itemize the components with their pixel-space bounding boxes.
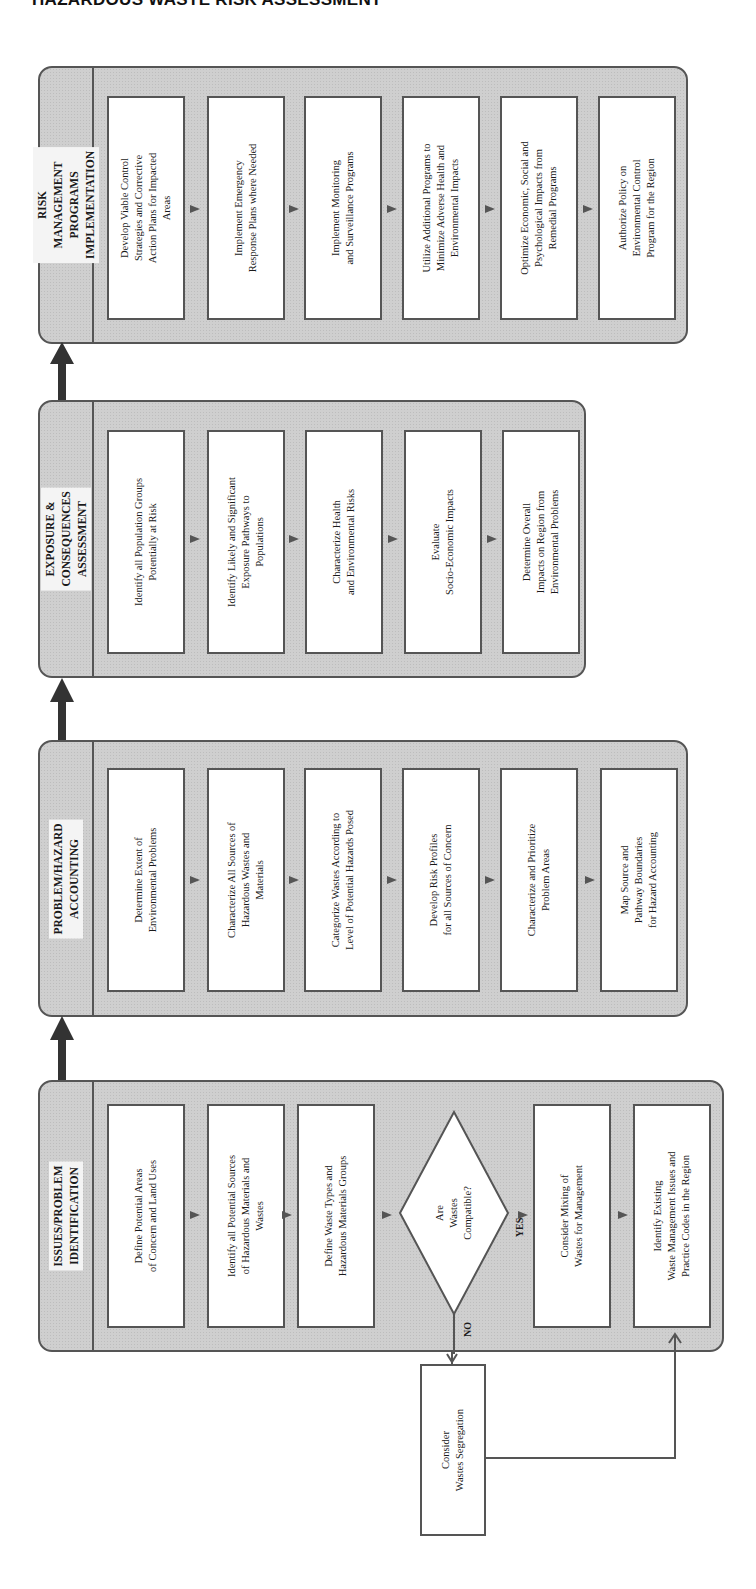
step-box: Authorize Policy on Environmental Contro… — [598, 96, 676, 320]
step-box: Develop Risk Profiles for all Sources of… — [402, 768, 480, 992]
arrow-up-icon — [668, 1332, 682, 1344]
step-box: Implement Emergency Response Plans where… — [207, 96, 285, 320]
flow-arrow-icon — [487, 535, 497, 543]
flow-arrow-icon — [190, 535, 200, 543]
step-box: Develop Viable Control Strategies and Co… — [107, 96, 185, 320]
stage-exposure-assessment: EXPOSURE & CONSEQUENCES ASSESSMENT Ident… — [38, 400, 586, 678]
step-box: Define Waste Types and Hazardous Materia… — [297, 1104, 375, 1328]
step-box: Identify Likely and Significant Exposure… — [207, 430, 285, 654]
no-connector — [453, 1314, 455, 1354]
return-connector — [674, 1336, 676, 1459]
step-box: Define Potential Areas of Concern and La… — [107, 1104, 185, 1328]
flow-arrow-icon — [289, 205, 299, 213]
decision-text: Are Wastes Compatible? — [433, 1173, 475, 1253]
stage-header: PROBLEM/HAZARD ACCOUNTING — [40, 742, 94, 1015]
stage-hazard-accounting: PROBLEM/HAZARD ACCOUNTING Determine Exte… — [38, 740, 688, 1017]
step-box: Evaluate Socio-Economic Impacts — [404, 430, 482, 654]
flow-arrow-icon — [382, 1211, 392, 1219]
flow-arrow-icon — [282, 1211, 292, 1219]
step-box: Determine Overall Impacts on Region from… — [502, 430, 580, 654]
step-box: Characterize Health and Environmental Ri… — [305, 430, 383, 654]
stage-risk-management: RISK MANAGEMENT PROGRAMS IMPLEMENTATION … — [38, 66, 688, 344]
arrow-down-icon — [446, 1352, 458, 1364]
stage-header: EXPOSURE & CONSEQUENCES ASSESSMENT — [40, 402, 94, 676]
stage-arrow-icon — [48, 342, 76, 402]
stage-title: EXPOSURE & CONSEQUENCES ASSESSMENT — [41, 487, 91, 590]
step-box: Identify Existing Waste Management Issue… — [633, 1104, 711, 1328]
page-title: HAZARDOUS WASTE RISK ASSESSMENT — [32, 0, 382, 10]
step-box: Utilize Additional Programs to Minimize … — [402, 96, 480, 320]
step-box: Optimize Economic, Social and Psychologi… — [500, 96, 578, 320]
flow-arrow-icon — [289, 876, 299, 884]
step-box: Map Source and Pathway Boundaries for Ha… — [600, 768, 678, 992]
flow-arrow-icon — [190, 876, 200, 884]
flow-arrow-icon — [190, 205, 200, 213]
flow-arrow-icon — [387, 876, 397, 884]
stage-header: ISSUES/PROBLEM IDENTIFICATION — [40, 1082, 94, 1350]
stage-title: PROBLEM/HAZARD ACCOUNTING — [49, 819, 83, 938]
segregation-step-box: Consider Wastes Segregation — [420, 1364, 486, 1536]
flow-arrow-icon — [388, 535, 398, 543]
step-box: Identify all Potential Sources of Hazard… — [207, 1104, 285, 1328]
step-box: Characterize and Prioritize Problem Area… — [500, 768, 578, 992]
stage-arrow-icon — [48, 1016, 76, 1082]
step-box: Implement Monitoring and Surveillance Pr… — [304, 96, 382, 320]
flow-arrow-icon — [289, 535, 299, 543]
stage-title: ISSUES/PROBLEM IDENTIFICATION — [49, 1162, 83, 1271]
step-box: Categorize Wastes According to Level of … — [304, 768, 382, 992]
yes-label: YES — [514, 1218, 525, 1237]
step-box: Characterize All Sources of Hazardous Wa… — [207, 768, 285, 992]
stage-title: RISK MANAGEMENT PROGRAMS IMPLEMENTATION — [33, 147, 99, 263]
flow-arrow-icon — [618, 1211, 628, 1219]
stage-arrow-icon — [48, 678, 76, 742]
step-box: Determine Extent of Environmental Proble… — [107, 768, 185, 992]
flow-arrow-icon — [190, 1211, 200, 1219]
flow-arrow-icon — [485, 876, 495, 884]
flow-arrow-icon — [583, 205, 593, 213]
stage-header: RISK MANAGEMENT PROGRAMS IMPLEMENTATION — [40, 68, 94, 342]
return-connector — [486, 1457, 676, 1459]
no-label: NO — [462, 1322, 473, 1337]
flow-arrow-icon — [585, 876, 595, 884]
step-box: Consider Mixing of Wastes for Management — [533, 1104, 611, 1328]
flow-arrow-icon — [387, 205, 397, 213]
flow-arrow-icon — [485, 205, 495, 213]
step-box: Identify all Population Groups Potential… — [107, 430, 185, 654]
stage-issues-identification: ISSUES/PROBLEM IDENTIFICATION Define Pot… — [38, 1080, 724, 1352]
